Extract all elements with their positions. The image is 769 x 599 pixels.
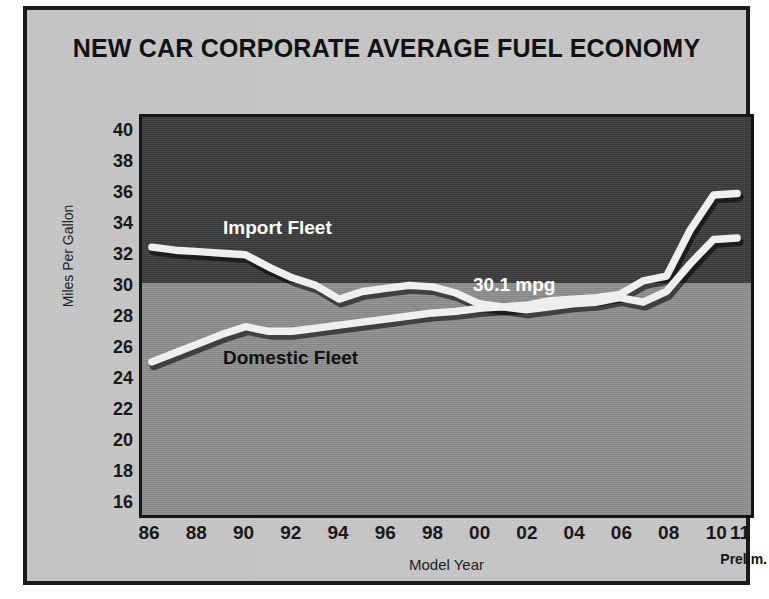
series-line-import bbox=[152, 194, 737, 307]
x-tick-label: 90 bbox=[233, 522, 254, 544]
y-tick-label: 22 bbox=[87, 399, 133, 420]
x-tick-label: 92 bbox=[280, 522, 301, 544]
y-axis-label: Miles Per Gallon bbox=[60, 171, 76, 341]
y-tick-label: 28 bbox=[87, 306, 133, 327]
x-tick-label: 11 bbox=[730, 522, 750, 544]
y-tick-label: 16 bbox=[87, 492, 133, 513]
series-label-import: Import Fleet bbox=[223, 217, 332, 239]
page-title: NEW CAR CORPORATE AVERAGE FUEL ECONOMY bbox=[27, 34, 746, 63]
threshold-annotation: 30.1 mpg bbox=[473, 274, 555, 296]
x-tick-label: 10 bbox=[706, 522, 727, 544]
x-tick-label: 02 bbox=[516, 522, 537, 544]
y-tick-label: 20 bbox=[87, 430, 133, 451]
x-tick-label: 94 bbox=[327, 522, 348, 544]
poster-frame: NEW CAR CORPORATE AVERAGE FUEL ECONOMY 4… bbox=[23, 6, 750, 585]
chart-page: NEW CAR CORPORATE AVERAGE FUEL ECONOMY 4… bbox=[0, 0, 769, 599]
series-lines bbox=[142, 117, 751, 515]
y-axis-ticks: 40383634323028262422201816 bbox=[83, 114, 133, 518]
x-tick-label: 98 bbox=[422, 522, 443, 544]
x-tick-label: 88 bbox=[186, 522, 207, 544]
y-tick-label: 32 bbox=[87, 243, 133, 264]
y-tick-label: 30 bbox=[87, 274, 133, 295]
plot-area bbox=[139, 114, 754, 518]
x-axis-label: Model Year bbox=[139, 556, 754, 573]
x-tick-label: 00 bbox=[469, 522, 490, 544]
prelim-note: Prelim. bbox=[677, 551, 767, 567]
y-tick-label: 40 bbox=[87, 119, 133, 140]
y-tick-label: 36 bbox=[87, 181, 133, 202]
x-tick-label: 08 bbox=[658, 522, 679, 544]
x-tick-label: 04 bbox=[564, 522, 585, 544]
y-tick-label: 34 bbox=[87, 212, 133, 233]
y-tick-label: 24 bbox=[87, 368, 133, 389]
y-tick-label: 38 bbox=[87, 150, 133, 171]
x-axis-ticks: 8688909294969800020406081011 bbox=[139, 522, 754, 550]
x-tick-label: 86 bbox=[138, 522, 159, 544]
x-tick-label: 96 bbox=[375, 522, 396, 544]
x-tick-label: 06 bbox=[611, 522, 632, 544]
y-tick-label: 26 bbox=[87, 337, 133, 358]
series-label-domestic: Domestic Fleet bbox=[223, 347, 358, 369]
y-tick-label: 18 bbox=[87, 461, 133, 482]
